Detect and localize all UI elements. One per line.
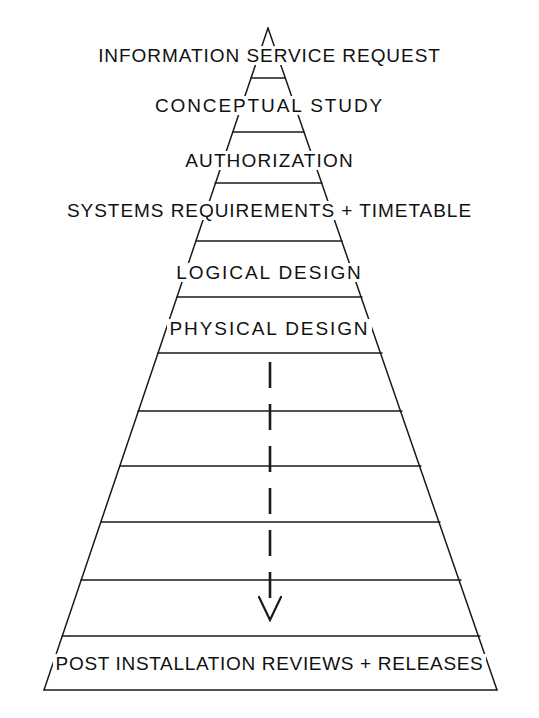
stage-label-physical-design: PHYSICAL DESIGN [0,319,539,338]
stage-label-text: INFORMATION SERVICE REQUEST [95,46,444,65]
stage-label-text: SYSTEMS REQUIREMENTS + TIMETABLE [64,201,475,220]
arrow-head [259,597,281,620]
stage-label-authorization: AUTHORIZATION [0,151,539,170]
stage-label-post-installation-reviews-releases: POST INSTALLATION REVIEWS + RELEASES [0,654,539,673]
lifecycle-pyramid-diagram: INFORMATION SERVICE REQUEST CONCEPTUAL S… [0,0,539,718]
stage-label-systems-requirements-timetable: SYSTEMS REQUIREMENTS + TIMETABLE [0,201,539,220]
stage-label-text: CONCEPTUAL STUDY [152,96,387,115]
stage-label-text: AUTHORIZATION [182,151,357,170]
downward-flow-arrow [259,362,281,620]
stage-label-text: LOGICAL DESIGN [173,263,365,282]
stage-label-information-service-request: INFORMATION SERVICE REQUEST [0,46,539,65]
stage-label-text: POST INSTALLATION REVIEWS + RELEASES [53,654,487,673]
stage-label-logical-design: LOGICAL DESIGN [0,263,539,282]
pyramid-right-edge [268,28,497,690]
pyramid-left-edge [44,28,268,690]
stage-label-text: PHYSICAL DESIGN [167,319,373,338]
stage-label-conceptual-study: CONCEPTUAL STUDY [0,96,539,115]
